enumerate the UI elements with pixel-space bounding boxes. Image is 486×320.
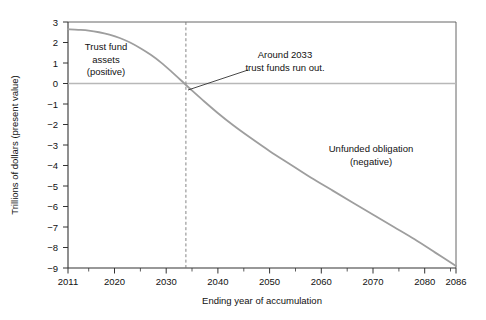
chart-figure: 3 2 1 0 −1 −2 −3 −4 −5 −6 −7 −8 −9 (0, 0, 486, 320)
x-tick-labels: 2011 2020 2030 2040 2050 2060 2070 2080 … (58, 276, 467, 287)
y-tick-label: 3 (53, 17, 58, 28)
negative-region-label-line1: Unfunded obligation (329, 143, 414, 154)
x-tick-label: 2060 (311, 276, 332, 287)
x-tick-label: 2040 (207, 276, 228, 287)
y-tick-label: −2 (47, 119, 58, 130)
y-tick-labels: 3 2 1 0 −1 −2 −3 −4 −5 −6 −7 −8 −9 (47, 17, 58, 274)
y-tick-label: −4 (47, 160, 58, 171)
y-tick-label: 2 (53, 37, 58, 48)
x-tick-label: 2011 (58, 276, 78, 287)
y-tick-label: 1 (53, 58, 58, 69)
run-out-label-line2: trust funds run out. (245, 62, 324, 73)
y-axis-title: Trillions of dollars (present value) (9, 75, 20, 215)
y-tick-label: −6 (47, 201, 58, 212)
x-axis-title: Ending year of accumulation (202, 295, 322, 306)
negative-region-label-line2: (negative) (350, 156, 392, 167)
x-tick-label: 2070 (362, 276, 383, 287)
chart-canvas: 3 2 1 0 −1 −2 −3 −4 −5 −6 −7 −8 −9 (0, 0, 486, 320)
positive-region-label-line1: Trust fund (85, 41, 127, 52)
y-tick-label: −5 (47, 181, 58, 192)
positive-region-label: Trust fund assets (positive) (85, 41, 127, 77)
annotation-leader-line (188, 70, 248, 90)
x-tick-label: 2086 (445, 276, 466, 287)
positive-region-label-line3: (positive) (87, 66, 126, 77)
y-tick-marks (63, 22, 68, 268)
y-tick-label: −1 (47, 99, 58, 110)
run-out-label-line1: Around 2033 (258, 49, 312, 60)
y-tick-label: −3 (47, 140, 58, 151)
x-tick-marks (68, 268, 456, 274)
negative-region-label: Unfunded obligation (negative) (329, 143, 414, 167)
y-tick-label: −7 (47, 222, 58, 233)
y-tick-label: 0 (53, 78, 58, 89)
trust-funds-run-out-label: Around 2033 trust funds run out. (245, 49, 324, 73)
positive-region-label-line2: assets (92, 54, 120, 65)
x-tick-label: 2050 (259, 276, 280, 287)
y-tick-label: −8 (47, 242, 58, 253)
y-tick-label: −9 (47, 263, 58, 274)
x-tick-label: 2030 (156, 276, 177, 287)
x-tick-label: 2020 (104, 276, 125, 287)
x-tick-label: 2080 (414, 276, 435, 287)
